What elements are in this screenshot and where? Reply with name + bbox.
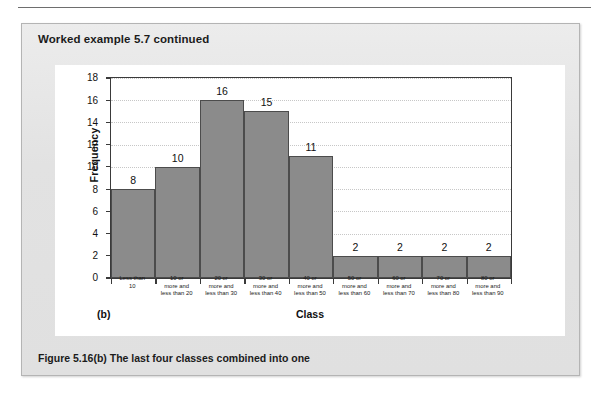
bars-group: 8101615112222 xyxy=(111,78,511,278)
x-category-label: 80 ormore andless than 90 xyxy=(459,275,517,298)
y-tick-label: 8 xyxy=(92,183,98,194)
figure-white-panel: Frequency 024681012141618 8101615112222 … xyxy=(55,65,565,336)
bar-value-label: 16 xyxy=(216,85,228,97)
x-axis-label: Class xyxy=(110,308,510,320)
figure-caption: Figure 5.16(b) The last four classes com… xyxy=(38,352,310,364)
bar-value-label: 2 xyxy=(441,241,447,253)
y-tick-label: 2 xyxy=(92,250,98,261)
bar xyxy=(244,111,288,278)
y-tick-label: 12 xyxy=(87,139,98,150)
bar xyxy=(155,167,199,278)
bar-value-label: 8 xyxy=(130,174,136,186)
bar-value-label: 15 xyxy=(261,96,273,108)
y-tick-label: 14 xyxy=(87,116,98,127)
y-tick-label: 0 xyxy=(92,272,98,283)
x-category-label-line: less than 90 xyxy=(459,290,517,298)
bar-value-label: 11 xyxy=(306,141,317,153)
bar-value-label: 2 xyxy=(486,241,492,253)
bar xyxy=(111,189,155,278)
y-tick-label: 10 xyxy=(87,161,98,172)
worked-example-title: Worked example 5.7 continued xyxy=(38,33,209,45)
y-tick-label: 16 xyxy=(87,94,98,105)
histogram-chart: Frequency 024681012141618 8101615112222 … xyxy=(55,65,565,336)
bar-value-label: 2 xyxy=(397,241,403,253)
y-tick-label: 4 xyxy=(92,227,98,238)
plot-area: 024681012141618 8101615112222 xyxy=(110,77,512,278)
bar-value-label: 2 xyxy=(353,241,359,253)
x-category-label-line: 80 or xyxy=(459,275,517,283)
y-tick-label: 18 xyxy=(87,72,98,83)
bar xyxy=(200,100,244,278)
bar xyxy=(289,156,333,278)
panel-letter: (b) xyxy=(97,308,110,320)
figure-page: Worked example 5.7 continued Frequency 0… xyxy=(0,0,604,398)
y-tick-label: 6 xyxy=(92,205,98,216)
bar-value-label: 10 xyxy=(172,152,184,164)
top-horizontal-rule xyxy=(18,7,591,8)
x-category-label-line: more and xyxy=(459,283,517,291)
